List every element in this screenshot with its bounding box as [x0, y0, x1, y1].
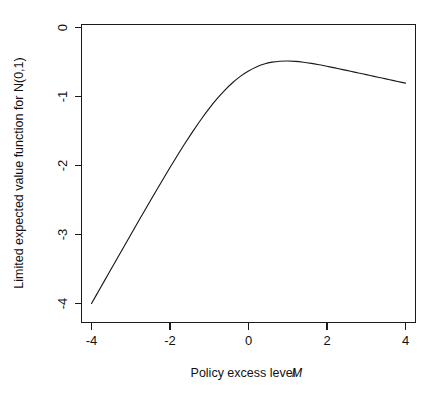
y-tick-label-minus-3: -3 — [55, 229, 70, 241]
y-tick-label-minus-4: -4 — [55, 298, 70, 310]
y-tick-label-minus-2: -2 — [55, 160, 70, 172]
x-axis-title: Policy excess level M — [191, 366, 303, 380]
y-tick-label-minus-1: -1 — [55, 91, 70, 103]
chart-figure: 0 -1 -2 -3 -4 -4 -2 0 2 4 Limited expect… — [0, 0, 437, 403]
x-tick-label-minus-2: -2 — [164, 333, 176, 348]
x-axis-title-text: Policy excess level — [191, 366, 296, 380]
x-tick-label-2: 2 — [323, 333, 330, 348]
x-tick-label-minus-4: -4 — [86, 333, 98, 348]
x-axis-title-symbol: M — [292, 366, 303, 380]
plot-canvas: 0 -1 -2 -3 -4 -4 -2 0 2 4 Limited expect… — [0, 0, 437, 403]
x-tick-label-0: 0 — [245, 333, 252, 348]
x-tick-label-4: 4 — [402, 333, 409, 348]
figure-background — [0, 0, 437, 403]
y-tick-label-0: 0 — [55, 24, 70, 31]
y-axis-title: Limited expected value function for N(0,… — [12, 57, 26, 288]
